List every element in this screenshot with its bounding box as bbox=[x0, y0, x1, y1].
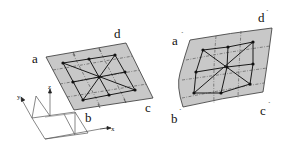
prime-mark-d: ´ bbox=[266, 8, 268, 16]
corner-label-c: c bbox=[145, 100, 151, 115]
corner-label-d: d bbox=[114, 26, 121, 41]
axis-label-y: y bbox=[17, 93, 21, 101]
prime-mark-c: ´ bbox=[268, 100, 270, 108]
axis-label-x: x bbox=[111, 125, 115, 133]
corner-label-b-prime: b bbox=[171, 111, 178, 126]
corner-label-a-prime: a bbox=[172, 33, 178, 48]
corner-label-b: b bbox=[85, 110, 92, 125]
corner-label-a: a bbox=[32, 51, 38, 66]
corner-label-c-prime: c bbox=[260, 103, 266, 118]
corner-label-d-prime: d bbox=[258, 10, 265, 25]
deformed-plate bbox=[179, 28, 272, 107]
deformation-diagram: x y z bbox=[0, 0, 283, 147]
prime-mark-a: ´ bbox=[181, 30, 183, 38]
prime-mark-b: ´ bbox=[179, 107, 181, 115]
undeformed-plate bbox=[46, 43, 153, 110]
axis-label-z: z bbox=[48, 83, 51, 91]
